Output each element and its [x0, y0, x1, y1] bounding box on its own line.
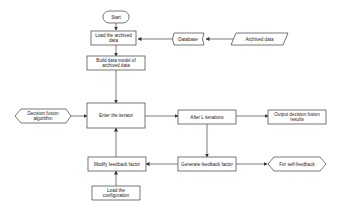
node-load-archived-data: Load the archived data: [91, 31, 136, 45]
node-load-archived-label-1: Load the archived: [95, 33, 132, 38]
node-generate-feedback-label: Generate feedback factor: [181, 162, 233, 167]
node-output-results-label-1: Output decision fusion: [274, 112, 320, 117]
node-build-model-label-2: archived data: [102, 63, 130, 68]
node-archived-data: Archived data: [231, 33, 288, 45]
node-modify-feedback-label: Modify feedback factor: [94, 162, 141, 167]
node-output-results-label-2: results: [290, 117, 304, 122]
node-start: Start: [103, 11, 129, 23]
node-load-config-label-1: Load the: [107, 188, 125, 193]
node-enter-iterator-label: Enter the iterator: [99, 113, 134, 118]
node-load-archived-label-2: data: [109, 38, 118, 43]
node-load-config-label-2: configuration: [103, 193, 130, 198]
node-self-feedback-label: For self-feedback: [279, 162, 315, 167]
node-decision-fusion-label-1: Decision fusion: [27, 111, 59, 116]
node-start-label: Start: [111, 15, 121, 20]
node-database-label: Database: [178, 37, 198, 42]
node-enter-iterator: Enter the iterator: [87, 103, 145, 128]
node-build-model-label-1: Build data model of: [96, 58, 136, 63]
node-database: Database: [173, 33, 205, 45]
node-after-l-label: After L iterations: [190, 115, 224, 120]
node-archived-data-label: Archived data: [245, 37, 274, 42]
node-decision-fusion-algorithm: Decision fusion algorithm: [15, 109, 71, 123]
node-generate-feedback-factor: Generate feedback factor: [178, 157, 236, 171]
node-load-configuration: Load the configuration: [92, 186, 140, 200]
node-after-l-iterations: After L iterations: [178, 110, 236, 124]
flowchart-canvas: Start Load the archived data Database Ar…: [0, 0, 342, 214]
node-for-self-feedback: For self-feedback: [268, 157, 326, 171]
node-decision-fusion-label-2: algorithm: [34, 116, 53, 121]
node-output-results: Output decision fusion results: [268, 110, 326, 124]
node-modify-feedback-factor: Modify feedback factor: [88, 157, 146, 171]
node-build-data-model: Build data model of archived data: [87, 56, 145, 70]
